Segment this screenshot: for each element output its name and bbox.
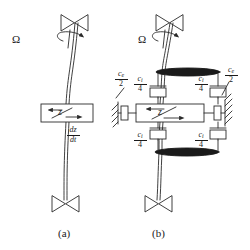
z-label-a: z [58, 106, 62, 117]
damper-label-ci-lower-right: ci 4 [192, 131, 210, 150]
damper-label-ci-lower-left: ci 4 [131, 131, 149, 150]
damper-mid-left [118, 102, 136, 124]
ci-numerator: ci [131, 75, 149, 83]
ci-numerator: ci [131, 131, 149, 139]
damper-lower-right [210, 128, 226, 140]
panel-b-disk-block [136, 104, 204, 122]
caption-b: (b) [152, 228, 165, 239]
velocity-numerator: dz [62, 126, 84, 134]
leader-ce-left [116, 88, 124, 98]
schematic-drawing [0, 0, 250, 250]
panel-a-disk-block [41, 104, 93, 122]
z-label-b: z [158, 106, 162, 117]
panel-a-lower-bearing [52, 196, 79, 212]
ce-denominator: 2 [112, 80, 130, 88]
damper-label-ci-upper-right: ci 4 [192, 75, 210, 94]
caption-a: (a) [58, 228, 70, 239]
figure-root: Ω z dz dt (a) Ω z ci 4 ci 4 ci 4 ci 4 ce… [0, 0, 250, 250]
ci-numerator: ci [192, 75, 210, 83]
omega-label-a: Ω [12, 34, 20, 45]
damper-label-ce-left: ce 2 [112, 70, 130, 89]
velocity-label-a: dz dt [62, 126, 84, 145]
ce-denominator: 2 [222, 76, 240, 84]
panel-b-upper-disk-plate [156, 68, 220, 76]
ce-numerator: ce [222, 66, 240, 74]
panel-b-lower-bearing [145, 196, 172, 212]
ci-denominator: 4 [131, 141, 149, 149]
ground-support-right [225, 94, 232, 124]
damper-mid-right [204, 100, 225, 126]
panel-a-rotation-arrow [57, 30, 82, 48]
damper-upper-left [150, 86, 166, 98]
ci-denominator: 4 [131, 85, 149, 93]
velocity-denominator: dt [62, 136, 84, 144]
ci-denominator: 4 [192, 141, 210, 149]
panel-b-drawing [112, 15, 232, 212]
damper-lower-left [150, 128, 166, 140]
damper-label-ce-right: ce 2 [222, 66, 240, 85]
ci-denominator: 4 [192, 85, 210, 93]
ci-numerator: ci [192, 131, 210, 139]
panel-b-rotation-arrow [152, 30, 177, 48]
ground-support-left [112, 104, 118, 127]
omega-label-b: Ω [138, 34, 146, 45]
damper-label-ci-upper-left: ci 4 [131, 75, 149, 94]
ce-numerator: ce [112, 70, 130, 78]
panel-a-drawing [41, 15, 93, 212]
